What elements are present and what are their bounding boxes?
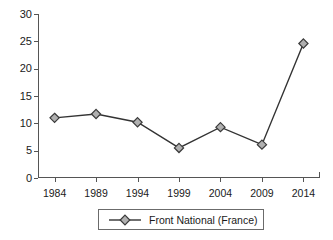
series-markers [50,39,308,153]
legend-item-label: Front National (France) [149,214,258,226]
y-tick-mark [34,178,38,179]
x-tick-mark [138,178,139,182]
data-point-marker [257,140,266,149]
data-point-marker [216,123,225,132]
legend: Front National (France) [98,209,264,230]
line-chart: 051015202530 198419891994199920042009201… [0,0,333,240]
data-point-marker [133,118,142,127]
data-point-marker [299,39,308,48]
y-tick-label: 20 [2,63,32,74]
x-tick-mark [262,178,263,182]
x-tick-mark [303,178,304,182]
data-point-marker [174,143,183,152]
y-tick-label: 25 [2,36,32,47]
x-tick-label: 2014 [281,188,325,199]
y-tick-label: 15 [2,91,32,102]
y-tick-label: 0 [2,173,32,184]
diamond-marker-icon [108,214,142,226]
x-tick-label: 1994 [116,188,160,199]
data-point-marker [50,113,59,122]
plot-area: 051015202530 198419891994199920042009201… [38,14,320,178]
x-tick-mark [55,178,56,182]
x-tick-label: 2009 [240,188,284,199]
x-tick-mark [96,178,97,182]
legend-item-front-national: Front National (France) [108,214,258,226]
x-tick-mark [179,178,180,182]
x-tick-label: 2004 [198,188,242,199]
series-line [55,44,304,148]
x-tick-mark [220,178,221,182]
y-tick-label: 10 [2,118,32,129]
series-front-national [38,14,320,178]
x-tick-label: 1989 [74,188,118,199]
y-tick-label: 5 [2,145,32,156]
x-tick-label: 1999 [157,188,201,199]
x-tick-label: 1984 [33,188,77,199]
data-point-marker [91,109,100,118]
y-tick-label: 30 [2,9,32,20]
